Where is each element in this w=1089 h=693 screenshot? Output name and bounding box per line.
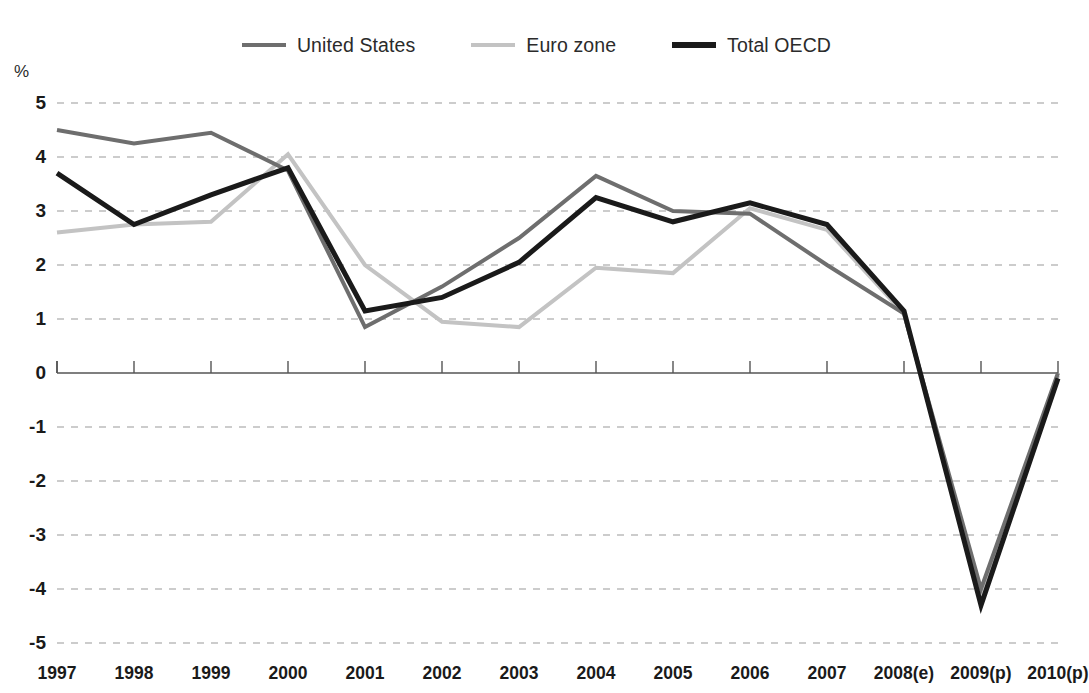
- x-axis-tick-label: 2001: [346, 663, 385, 684]
- y-axis-tick-label: 4: [2, 146, 46, 168]
- x-axis-tick-label: 1999: [192, 663, 231, 684]
- gridlines-group: [57, 103, 1058, 643]
- x-axis-tick-label: 2009(p): [950, 663, 1011, 684]
- x-axis-tick-label: 2005: [654, 663, 693, 684]
- series-line-total-oecd: [57, 168, 1058, 605]
- x-axis-tick-label: 2002: [423, 663, 462, 684]
- y-axis-tick-label: 0: [2, 362, 46, 384]
- y-axis-tick-label: 2: [2, 254, 46, 276]
- x-axis-tick-label: 2003: [500, 663, 539, 684]
- y-axis-tick-label: 1: [2, 308, 46, 330]
- x-axis-tick-label: 1998: [115, 663, 154, 684]
- y-axis-tick-label: -1: [2, 416, 46, 438]
- x-axis-tick-label: 2000: [269, 663, 308, 684]
- y-axis-tick-label: -2: [2, 470, 46, 492]
- series-line-euro-zone: [57, 154, 1058, 594]
- x-axis-tick-label: 2006: [731, 663, 770, 684]
- y-axis-tick-label: 5: [2, 92, 46, 114]
- series-group: [57, 130, 1058, 605]
- y-axis-tick-label: -5: [2, 632, 46, 654]
- x-axis-tick-label: 2008(e): [874, 663, 934, 684]
- x-axis-tick-label: 2010(p): [1027, 663, 1088, 684]
- x-axis-tick-label: 2004: [577, 663, 616, 684]
- y-axis-tick-label: 3: [2, 200, 46, 222]
- y-axis-tick-label: -4: [2, 578, 46, 600]
- x-axis-tick-label: 2007: [808, 663, 847, 684]
- x-axis-tick-label: 1997: [38, 663, 77, 684]
- x-tickmarks-group: [57, 361, 1058, 373]
- y-axis-tick-label: -3: [2, 524, 46, 546]
